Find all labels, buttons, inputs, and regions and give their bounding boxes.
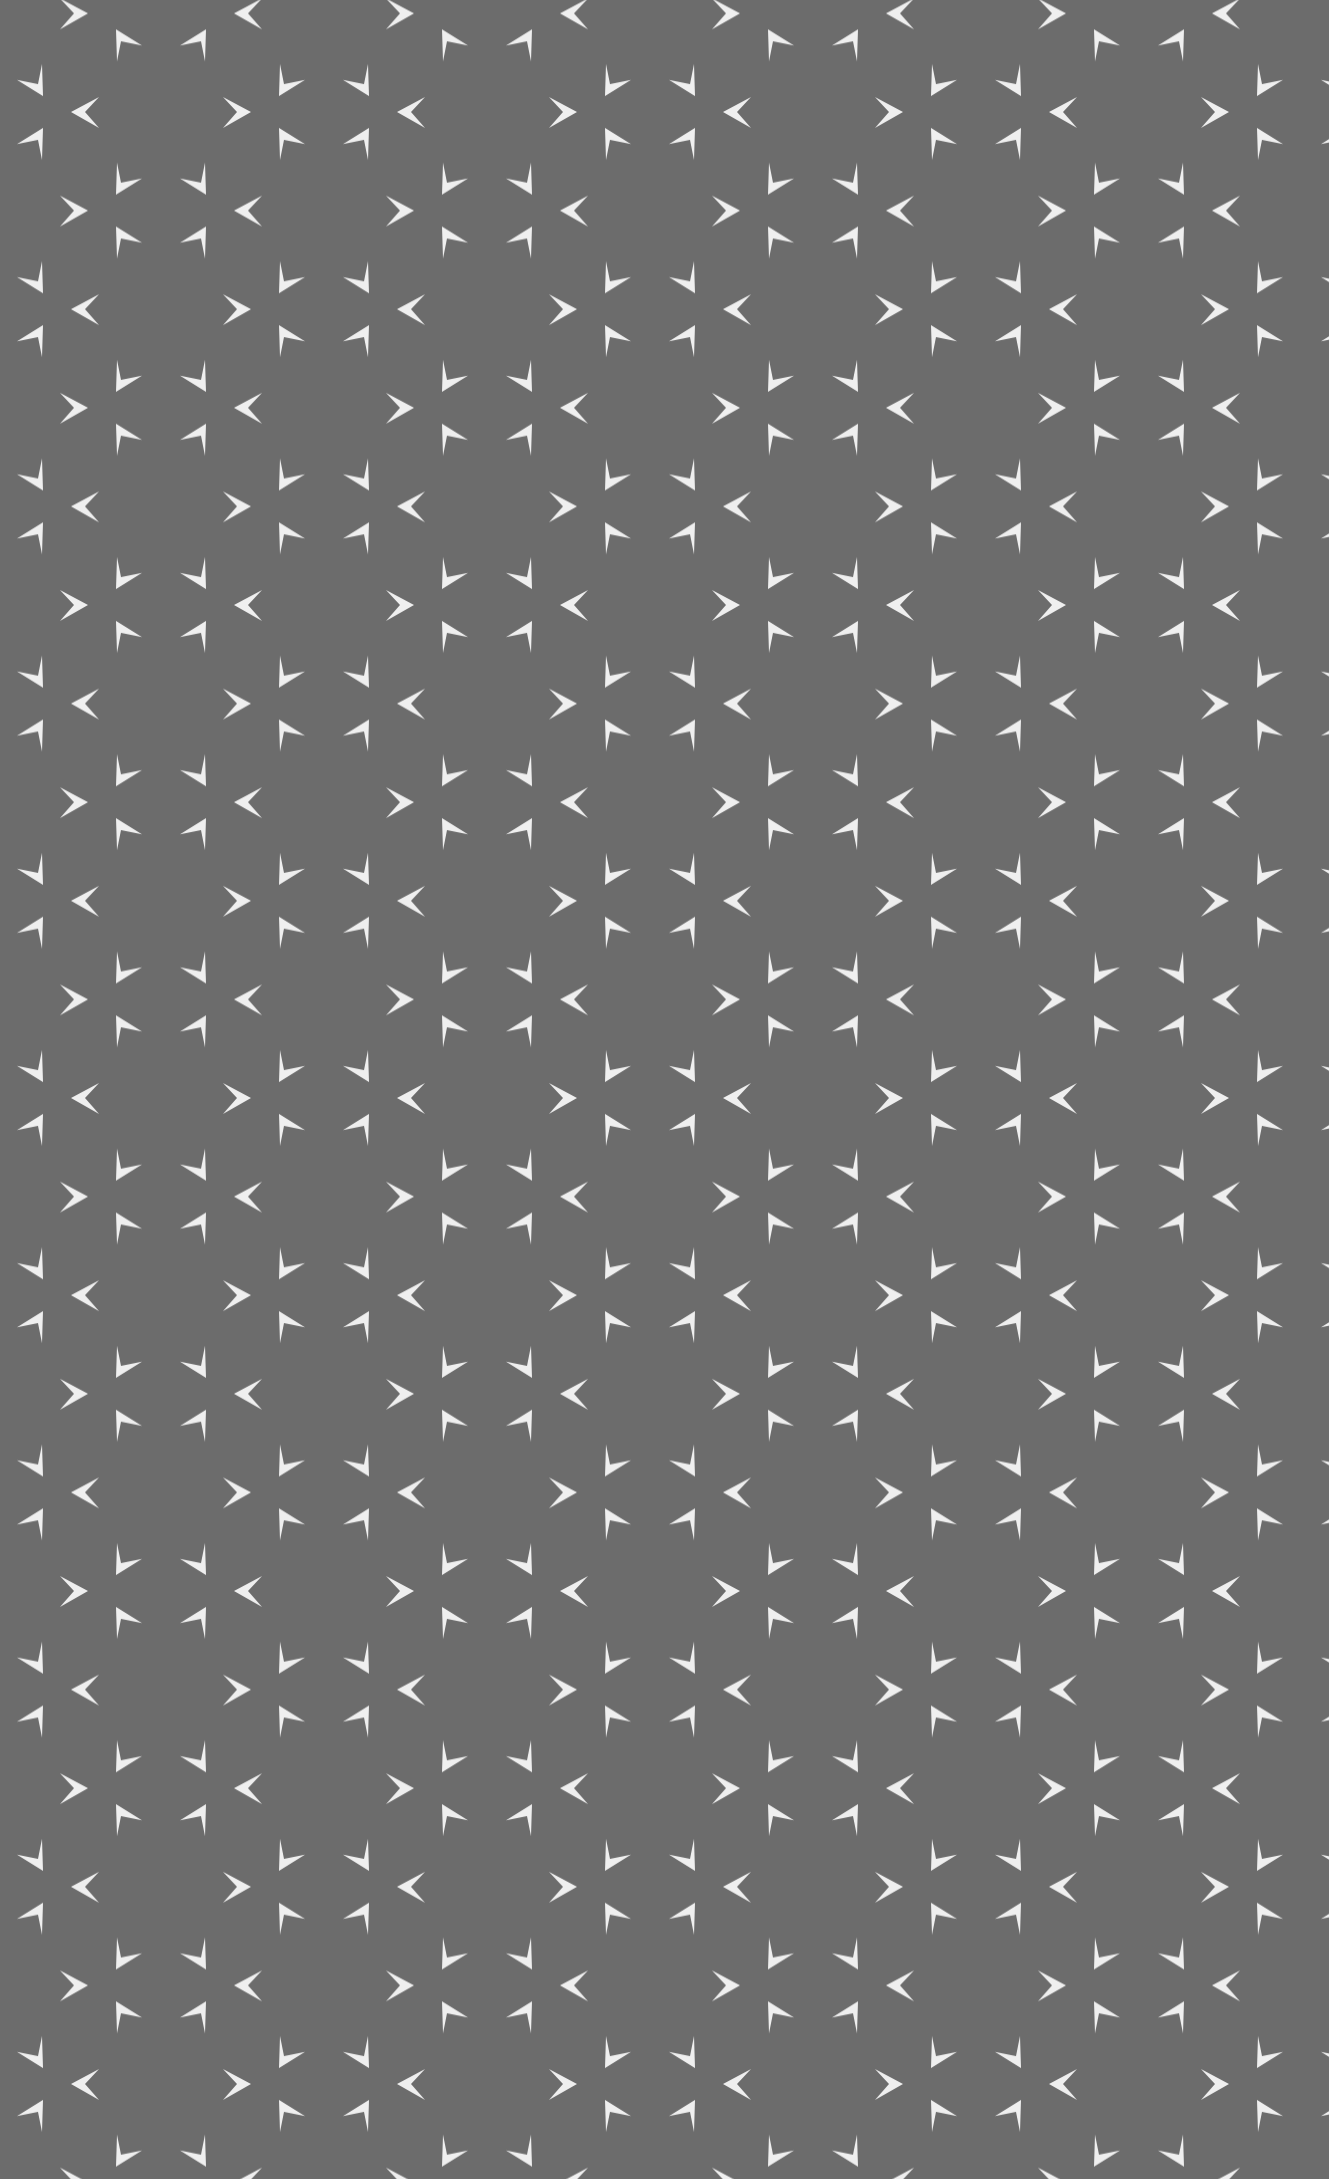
fabric-texture-overlay bbox=[0, 0, 1329, 2179]
fabric-pattern-svg bbox=[0, 0, 1329, 2179]
fabric-image bbox=[0, 0, 1329, 2179]
